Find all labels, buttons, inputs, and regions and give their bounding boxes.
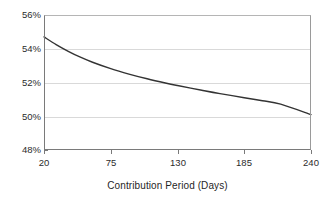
x-tick-mark-75	[111, 150, 112, 154]
y-tick-label-56: 56%	[3, 10, 41, 20]
x-tick-label-130: 130	[158, 157, 198, 168]
line-chart: 56% 54% 52% 50% 48% 20 75 130 185 240 Co…	[0, 0, 335, 203]
series-path	[44, 37, 311, 115]
y-tick-label-48: 48%	[3, 145, 41, 155]
x-tick-mark-20	[44, 150, 45, 154]
y-tick-label-54: 54%	[3, 44, 41, 54]
x-tick-mark-185	[244, 150, 245, 154]
x-tick-label-240: 240	[291, 157, 331, 168]
y-tick-label-52: 52%	[3, 78, 41, 88]
series-line-contribution-rate	[44, 15, 311, 150]
x-tick-label-20: 20	[24, 157, 64, 168]
y-tick-label-50: 50%	[3, 112, 41, 122]
plot-area	[44, 15, 311, 150]
x-tick-label-75: 75	[91, 157, 131, 168]
x-tick-mark-130	[178, 150, 179, 154]
x-tick-mark-240	[311, 150, 312, 154]
y-axis: 56% 54% 52% 50% 48%	[0, 0, 41, 203]
x-axis-title: Contribution Period (Days)	[0, 180, 335, 192]
x-tick-label-185: 185	[224, 157, 264, 168]
